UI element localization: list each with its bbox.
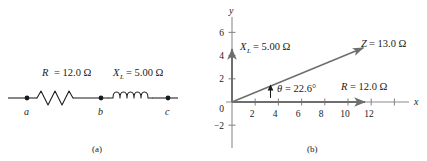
- panel-b-phasor: 2 4 6 8 10 12 −2 0 2 4 6 x y: [213, 0, 427, 161]
- x-axis-label: x: [413, 96, 419, 107]
- resistor-symbol: [37, 91, 73, 105]
- panel-a-circuit: R = 12.0 Ω X L = 5.00 Ω a b c (a): [0, 0, 213, 161]
- vector-Z-symbol-label: Z: [361, 38, 367, 49]
- vector-XL-symbol-label: X: [239, 41, 247, 52]
- node-dot-c: [166, 96, 171, 101]
- x-tick-label-2: 2: [250, 109, 255, 119]
- x-tick-label-4: 4: [273, 109, 278, 119]
- vector-XL-subscript: L: [246, 47, 251, 55]
- circuit-diagram-svg: R = 12.0 Ω X L = 5.00 Ω a b c (a): [0, 0, 213, 161]
- node-label-b: b: [98, 106, 103, 117]
- resistor-value-label: = 12.0 Ω: [54, 67, 92, 78]
- figure-container: R = 12.0 Ω X L = 5.00 Ω a b c (a): [0, 0, 427, 161]
- theta-value-label: = 22.6°: [285, 83, 316, 94]
- node-label-a: a: [24, 106, 29, 117]
- vector-Z-value-label: = 13.0 Ω: [369, 38, 407, 49]
- caption-panel-a: (a): [92, 144, 102, 154]
- vector-R-value-label: = 12.0 Ω: [350, 81, 388, 92]
- inductor-symbol-subscript: L: [119, 73, 124, 81]
- y-tick-label-2: 2: [219, 74, 224, 84]
- inductor-symbol-label: X: [112, 67, 120, 78]
- node-label-c: c: [165, 106, 170, 117]
- inductor-symbol: [109, 92, 152, 98]
- phasor-diagram-svg: 2 4 6 8 10 12 −2 0 2 4 6 x y: [213, 0, 427, 161]
- resistor-symbol-label: R: [41, 67, 49, 78]
- x-tick-label-12: 12: [364, 109, 374, 119]
- caption-panel-b: (b): [307, 144, 318, 154]
- node-dot-a: [25, 96, 30, 101]
- y-tick-label-6: 6: [219, 28, 224, 38]
- x-tick-label-6: 6: [296, 109, 301, 119]
- y-tick-label-4: 4: [219, 51, 224, 61]
- y-tick-label-0: 0: [219, 104, 224, 114]
- x-tick-label-8: 8: [319, 109, 324, 119]
- node-dot-b: [99, 96, 104, 101]
- theta-symbol-label: θ: [277, 83, 282, 94]
- y-tick-label-minus-2: −2: [214, 121, 224, 131]
- vector-XL-value-label: = 5.00 Ω: [253, 41, 291, 52]
- inductor-value-label: = 5.00 Ω: [126, 67, 164, 78]
- x-tick-label-10: 10: [340, 109, 350, 119]
- y-axis-label: y: [228, 5, 234, 16]
- vector-R-symbol-label: R: [340, 81, 348, 92]
